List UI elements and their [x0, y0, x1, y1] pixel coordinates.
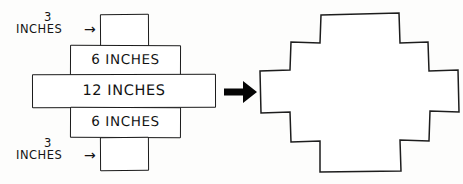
callout-bottom-three-inches: 3 INCHES →: [14, 136, 106, 168]
lower-band-label: 6 INCHES: [71, 113, 180, 129]
callout-bottom-arrow-icon: →: [84, 148, 96, 162]
upper-band-label: 6 INCHES: [71, 51, 180, 67]
callout-top-three-inches: 3 INCHES →: [14, 10, 106, 42]
callout-bottom-unit: INCHES: [16, 148, 62, 162]
net-piece-middle-band: 12 INCHES: [32, 74, 216, 108]
net-piece-bottom-flap: [100, 137, 149, 171]
net-piece-lower-band: 6 INCHES: [70, 107, 181, 138]
cross-outline-path: [260, 13, 459, 172]
callout-top-arrow-icon: →: [84, 22, 96, 36]
diagram-canvas: 6 INCHES 12 INCHES 6 INCHES 3 INCHES → 3…: [0, 0, 463, 184]
net-piece-top-flap: [100, 14, 149, 47]
net-piece-upper-band: 6 INCHES: [70, 45, 181, 76]
middle-band-label: 12 INCHES: [33, 82, 215, 98]
right-arrow-icon: [224, 79, 258, 105]
callout-top-unit: INCHES: [16, 22, 62, 36]
stepped-cross-figure: [258, 8, 460, 178]
